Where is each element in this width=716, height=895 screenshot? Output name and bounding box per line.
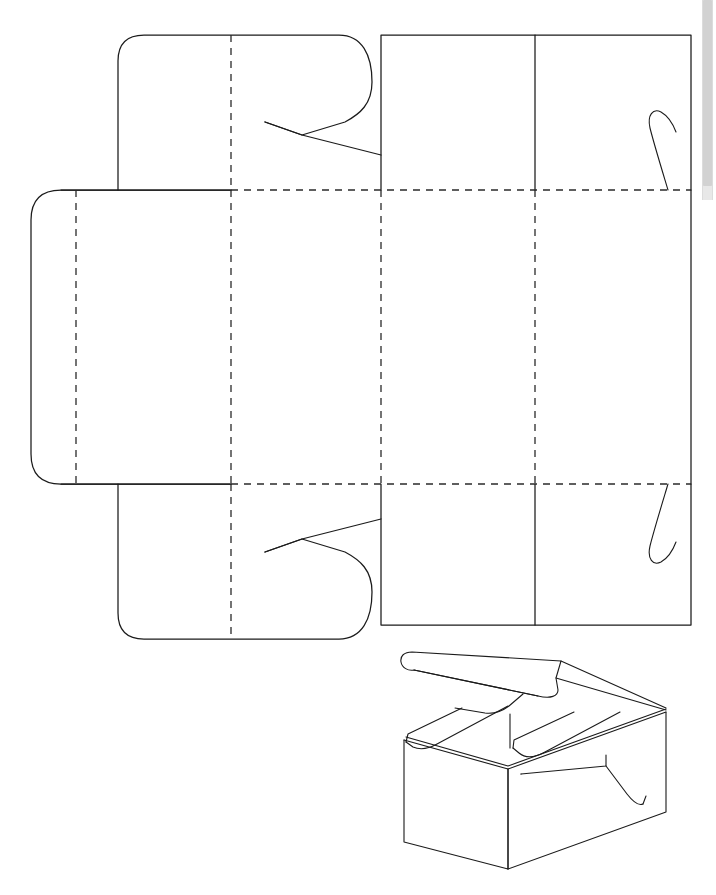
box-right-face (508, 712, 666, 869)
box-dieline-drawing (0, 0, 716, 895)
left-side-flap-outline (31, 190, 231, 484)
vertical-scrollbar-track[interactable] (702, 0, 713, 200)
box-front-face (404, 740, 508, 869)
box-top-left-flap-edge (406, 708, 462, 742)
dieline-viewport (0, 0, 716, 895)
vertical-scrollbar-thumb[interactable] (703, 0, 712, 186)
box-rear-flap (455, 694, 523, 713)
assembled-box-group (401, 652, 666, 869)
box-top-right-flap-edge (513, 712, 574, 748)
top-right-panel-outline (381, 35, 691, 190)
dieline-group (31, 35, 691, 639)
top-left-flap-outline (118, 35, 372, 190)
box-side-tab-end (643, 796, 646, 804)
box-lid-crease (414, 670, 538, 696)
box-side-tab (521, 755, 606, 774)
top-flap-notch-stub (265, 122, 381, 155)
box-top-rim (406, 709, 666, 766)
bottom-left-flap-outline (118, 484, 372, 639)
box-lid (401, 652, 561, 697)
bottom-flap-notch-stub (265, 519, 381, 552)
bottom-right-panel-outline (381, 484, 691, 625)
top-hook-slit (649, 111, 676, 190)
box-side-tab-hook (606, 766, 643, 805)
bottom-hook-slit (649, 484, 676, 563)
